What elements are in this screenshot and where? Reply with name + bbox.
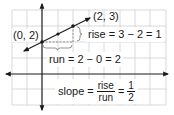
fraction-denominator-2: 2 [128,92,134,103]
equals-sign: = [118,85,124,98]
point-label-2-3: (2, 3) [93,10,119,22]
point-0-2 [40,40,44,44]
rise-brace [77,27,82,41]
rise-label: rise = 3 − 2 = 1 [86,27,164,42]
run-label: run = 2 − 0 = 2 [47,52,123,67]
slope-value-fraction: 1 2 [127,80,135,103]
slope-formula: slope = rise run = 1 2 [55,79,138,104]
fraction-numerator-rise: rise [97,80,115,92]
point-midpoint [56,32,59,35]
fraction-denominator-run: run [99,92,113,103]
point-2-3 [71,24,75,28]
point-label-0-2: (0, 2) [13,29,39,41]
rise-over-run-fraction: rise run [97,80,115,103]
fraction-numerator-1: 1 [127,80,135,92]
run-brace [43,45,72,50]
slope-prefix: slope = [58,85,94,98]
